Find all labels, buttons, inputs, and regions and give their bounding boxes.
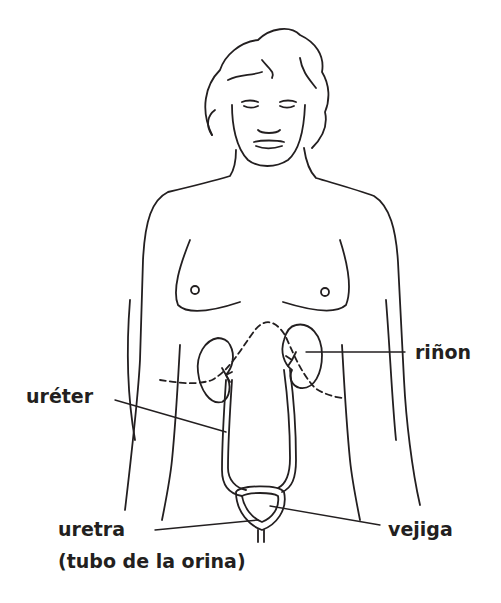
hair bbox=[205, 29, 328, 148]
kidneys bbox=[198, 325, 322, 403]
bladder bbox=[236, 486, 285, 542]
leader-lines bbox=[115, 352, 405, 530]
ureters bbox=[222, 370, 296, 496]
label-urethra: uretra bbox=[58, 518, 125, 540]
urinary-system-illustration bbox=[0, 0, 501, 603]
face bbox=[232, 101, 305, 167]
breasts bbox=[176, 240, 349, 311]
label-ureter: uréter bbox=[26, 385, 93, 407]
dashed-boundary bbox=[160, 322, 345, 398]
label-urethra-note: (tubo de la orina) bbox=[58, 550, 246, 572]
label-kidney: riñon bbox=[415, 341, 471, 363]
torso-outline bbox=[125, 148, 420, 520]
label-bladder: vejiga bbox=[388, 518, 453, 540]
